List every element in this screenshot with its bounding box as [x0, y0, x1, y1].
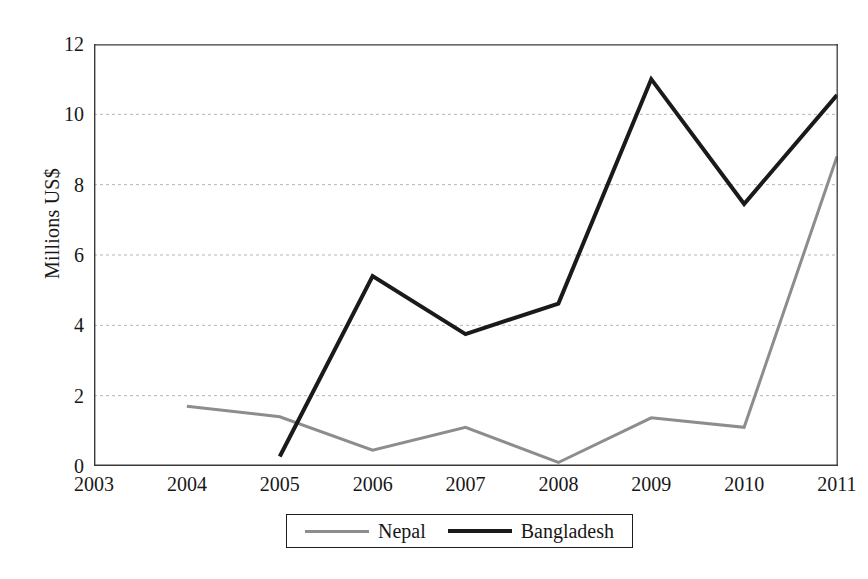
- gridline-group: [94, 114, 838, 395]
- y-axis-tick-label: 4: [50, 315, 84, 335]
- legend-label-bangladesh: Bangladesh: [521, 521, 614, 541]
- y-axis-tick-label: 8: [50, 175, 84, 195]
- x-axis-tick-label: 2011: [792, 474, 868, 494]
- legend-label-nepal: Nepal: [378, 521, 426, 541]
- chart-legend: Nepal Bangladesh: [286, 514, 633, 548]
- x-axis-tick-label-group: 200320042005200620072008200920102011: [94, 474, 838, 504]
- line-chart-figure: Millions US$ 024681012 20032004200520062…: [0, 0, 868, 579]
- y-axis-tick-label: 6: [50, 245, 84, 265]
- x-axis-tick-label: 2003: [49, 474, 139, 494]
- x-axis-tick-label: 2008: [513, 474, 603, 494]
- plot-area: [94, 44, 838, 466]
- legend-entry-nepal: Nepal: [305, 521, 426, 541]
- x-axis-tick-label: 2007: [421, 474, 511, 494]
- x-axis-tick-label: 2010: [699, 474, 789, 494]
- nepal-line-swatch: [305, 530, 369, 533]
- y-axis-tick-label: 10: [50, 104, 84, 124]
- data-series-group: [187, 79, 837, 462]
- x-axis-tick-label: 2005: [235, 474, 325, 494]
- bangladesh-line-swatch: [448, 529, 512, 533]
- legend-entry-bangladesh: Bangladesh: [448, 521, 614, 541]
- plot-svg: [94, 44, 838, 466]
- x-axis-tick-label: 2006: [328, 474, 418, 494]
- x-axis-tick-label: 2004: [142, 474, 232, 494]
- y-axis-tick-label: 12: [50, 34, 84, 54]
- y-axis-tick-label: 2: [50, 386, 84, 406]
- x-axis-tick-label: 2009: [606, 474, 696, 494]
